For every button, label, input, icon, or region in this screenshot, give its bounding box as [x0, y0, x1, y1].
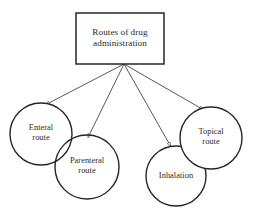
node-shape-parenteral[interactable] [55, 135, 119, 199]
node-shape-enteral[interactable] [10, 103, 72, 165]
diagram-canvas: Routes of drug administration Enteral ro… [0, 0, 253, 215]
connector-root-to-enteral [46, 64, 124, 105]
node-shape-topical[interactable] [180, 107, 242, 169]
diagram-svg [0, 0, 253, 215]
root-node-shape[interactable] [76, 13, 164, 64]
connector-root-to-parenteral [88, 64, 124, 138]
connector-root-to-topical [124, 64, 203, 110]
connector-root-to-inhalation [124, 64, 171, 146]
